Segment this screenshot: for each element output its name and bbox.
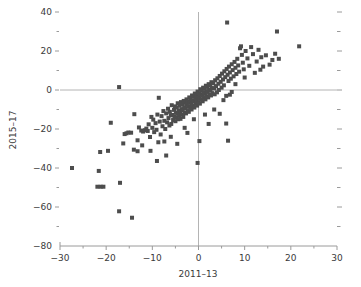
scatter-plot-canvas: −30−20−100102030 40200−20−40−60−80 2011–… <box>0 0 361 287</box>
data-point-marker <box>70 166 74 170</box>
data-point-marker <box>203 113 207 117</box>
data-point-marker <box>136 138 140 142</box>
x-tick-label: 0 <box>196 253 202 263</box>
data-point-marker <box>258 68 262 72</box>
scatter-plot-figure: −30−20−100102030 40200−20−40−60−80 2011–… <box>0 0 361 287</box>
y-tick-label: −40 <box>33 163 52 173</box>
data-point-marker <box>130 216 134 220</box>
data-point-marker <box>158 120 162 124</box>
data-point-marker <box>117 85 121 89</box>
data-point-marker <box>151 118 155 122</box>
data-point-marker <box>239 44 243 48</box>
zero-reference-lines <box>60 12 337 246</box>
data-point-marker <box>101 185 105 189</box>
data-point-marker <box>207 122 211 126</box>
data-point-marker <box>155 159 159 163</box>
x-axis-tick-labels: −30−20−100102030 <box>51 253 343 263</box>
data-point-marker <box>156 140 160 144</box>
data-point-marker <box>226 139 230 143</box>
data-point-marker <box>98 150 102 154</box>
data-point-marker <box>245 56 249 60</box>
data-point-marker <box>196 161 200 165</box>
data-point-marker <box>154 128 158 132</box>
data-point-marker <box>97 169 101 173</box>
y-axis-ticks <box>55 12 59 227</box>
data-point-marker <box>197 139 201 143</box>
data-point-marker <box>169 122 173 126</box>
data-point-marker <box>233 82 237 86</box>
data-point-marker <box>148 149 152 153</box>
data-point-marker <box>259 55 263 59</box>
data-point-marker <box>247 64 251 68</box>
data-point-marker <box>164 154 168 158</box>
x-tick-label: −10 <box>143 253 162 263</box>
data-point-marker <box>253 71 257 75</box>
data-point-marker <box>264 53 268 57</box>
x-tick-label: −20 <box>97 253 116 263</box>
data-point-marker <box>237 70 241 74</box>
y-tick-label: −80 <box>33 241 52 251</box>
data-point-marker <box>106 149 110 153</box>
data-point-marker <box>162 139 166 143</box>
data-point-marker <box>129 131 133 135</box>
scatter-data-points <box>70 21 301 220</box>
x-tick-label: 20 <box>285 253 297 263</box>
data-point-marker <box>159 132 163 136</box>
data-point-marker <box>241 61 245 65</box>
x-axis-title: 2011–13 <box>179 269 218 279</box>
data-point-marker <box>148 135 152 139</box>
data-point-marker <box>192 117 196 121</box>
x-tick-label: 10 <box>239 253 251 263</box>
data-point-marker <box>183 126 187 130</box>
data-point-marker <box>270 58 274 62</box>
y-axis-title: 2015–17 <box>8 111 18 150</box>
data-point-marker <box>240 53 244 57</box>
y-tick-label: 0 <box>46 85 52 95</box>
y-tick-label: −20 <box>33 124 52 134</box>
data-point-marker <box>225 21 229 25</box>
data-point-marker <box>251 52 255 56</box>
data-point-marker <box>181 115 185 119</box>
data-point-marker <box>255 60 259 64</box>
data-point-marker <box>242 67 246 71</box>
data-point-marker <box>235 57 239 61</box>
data-point-marker <box>218 112 222 116</box>
data-point-marker <box>136 149 140 153</box>
data-point-marker <box>140 143 144 147</box>
data-point-marker <box>150 126 154 130</box>
y-axis-tick-labels: 40200−20−40−60−80 <box>33 7 52 251</box>
data-point-marker <box>224 122 228 126</box>
data-point-marker <box>275 30 279 34</box>
data-point-marker <box>268 63 272 67</box>
data-point-marker <box>224 94 228 98</box>
data-point-marker <box>160 114 164 118</box>
data-point-marker <box>157 96 161 100</box>
data-point-marker <box>243 76 247 80</box>
data-point-marker <box>277 57 281 61</box>
data-point-marker <box>164 111 168 115</box>
data-point-marker <box>132 148 136 152</box>
data-point-marker <box>132 112 136 116</box>
data-point-marker <box>109 121 113 125</box>
data-point-marker <box>118 181 122 185</box>
data-point-marker <box>236 63 240 67</box>
y-tick-label: 20 <box>41 46 53 56</box>
y-tick-label: 40 <box>41 7 53 17</box>
data-point-marker <box>147 122 151 126</box>
data-point-marker <box>155 113 159 117</box>
x-tick-label: 30 <box>331 253 343 263</box>
data-point-marker <box>117 209 121 213</box>
data-point-marker <box>185 131 189 135</box>
data-point-marker <box>175 142 179 146</box>
data-point-marker <box>244 49 248 53</box>
data-point-marker <box>163 127 167 131</box>
data-point-marker <box>222 83 226 87</box>
data-point-marker <box>257 48 261 52</box>
data-point-marker <box>221 98 225 102</box>
right-axis-ticks <box>337 12 342 227</box>
data-point-marker <box>169 135 173 139</box>
data-point-marker <box>230 90 234 94</box>
data-point-marker <box>146 129 150 133</box>
data-point-marker <box>273 52 277 56</box>
x-tick-label: −30 <box>51 253 70 263</box>
